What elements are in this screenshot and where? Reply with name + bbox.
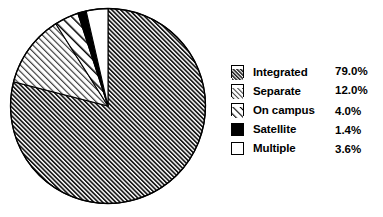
blank-white-swatch-icon [231,142,244,155]
legend-item-satellite[interactable]: Satellite 1.4% [231,120,383,139]
legend-label-satellite: Satellite [253,123,335,135]
legend-label-on-campus: On campus [253,104,335,116]
solid-black-swatch-icon [231,123,244,136]
legend-item-integrated[interactable]: Integrated 79.0% [231,62,383,81]
legend-item-separate[interactable]: Separate 12.0% [231,81,383,100]
dense-diagonal-hatch-swatch-icon [231,65,244,78]
legend-value-multiple: 3.6% [335,143,361,155]
sparse-diagonal-hatch-swatch-icon [231,103,244,116]
legend-label-integrated: Integrated [253,66,335,78]
chart-legend: Integrated 79.0% Separate 12.0% On campu… [231,62,383,158]
pie-slices [10,8,205,203]
legend-label-multiple: Multiple [253,142,335,154]
legend-value-satellite: 1.4% [335,124,361,136]
legend-value-integrated: 79.0% [335,65,368,77]
light-diagonal-hatch-swatch-icon [231,84,244,97]
legend-value-separate: 12.0% [335,84,368,96]
legend-label-separate: Separate [253,85,335,97]
legend-item-on-campus[interactable]: On campus 4.0% [231,100,383,119]
pie-chart-area [0,0,220,217]
pie-chart-svg [0,0,220,217]
pie-chart-figure: Integrated 79.0% Separate 12.0% On campu… [0,0,383,217]
legend-item-multiple[interactable]: Multiple 3.6% [231,139,383,158]
legend-value-on-campus: 4.0% [335,105,361,117]
